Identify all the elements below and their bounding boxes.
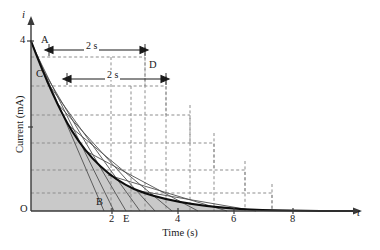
point-label-e: E — [123, 214, 129, 225]
point-label-a: A — [41, 35, 49, 46]
x-tick-label-4: 4 — [175, 214, 180, 225]
chart-canvas — [0, 0, 380, 250]
x-axis-symbol: t — [357, 207, 360, 218]
point-label-d: D — [149, 60, 157, 71]
point-label-c: C — [36, 69, 43, 80]
y-axis-title: Current (mA) — [15, 79, 26, 169]
interval-label-lower: 2 s — [105, 70, 120, 80]
interval-arrow-2-head-right — [161, 76, 169, 83]
x-tick-label-6: 6 — [231, 214, 236, 225]
x-tick-label-2: 2 — [109, 214, 114, 225]
shaded-area-under-curve — [31, 41, 356, 211]
origin-label: O — [20, 204, 28, 215]
x-tick-label-8: 8 — [290, 214, 295, 225]
y-axis-arrowhead — [27, 16, 34, 25]
figure-exponential-decay: i t Current (mA) Time (s) O 4 2 4 6 8 A … — [0, 0, 380, 250]
y-tick-label-4: 4 — [20, 35, 25, 46]
interval-arrow-1-head-right — [140, 47, 148, 54]
interval-label-upper: 2 s — [84, 41, 99, 51]
point-label-b: B — [96, 197, 103, 208]
y-axis-symbol: i — [22, 9, 25, 20]
x-axis-title: Time (s) — [150, 228, 210, 239]
